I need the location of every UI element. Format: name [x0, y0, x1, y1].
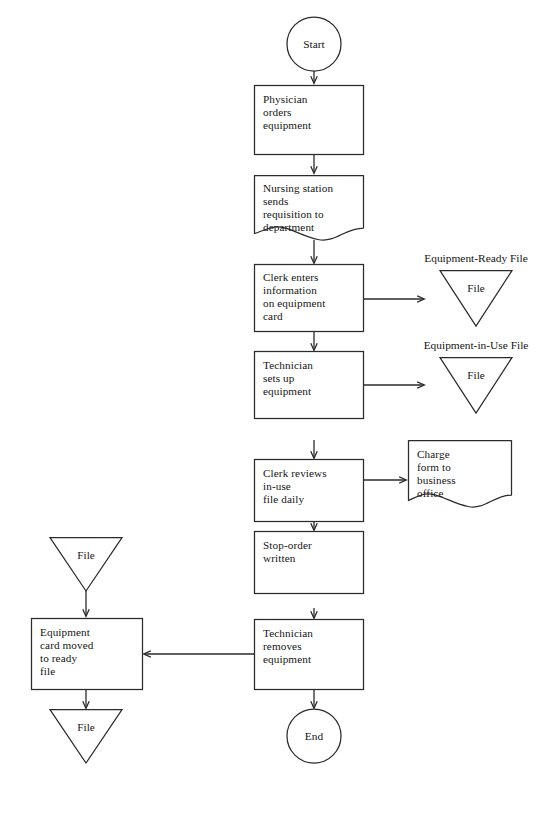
equipment-card-moved-line-3: to ready [40, 652, 77, 664]
physician-line-2: orders [263, 106, 292, 118]
charge-form-line-1: Charge [417, 448, 450, 460]
stop-order-line-2: written [263, 552, 296, 564]
file-ready-target[interactable]: File [50, 710, 122, 764]
physician-line-1: Physician [263, 93, 308, 105]
node-technician-sets-up[interactable]: Technician sets up equipment [255, 352, 364, 419]
technician-removes-line-1: Technician [263, 627, 313, 639]
clerk-reviews-line-3: file daily [263, 493, 304, 505]
node-physician-orders-equipment[interactable]: Physician orders equipment [255, 86, 364, 155]
technician-sets-line-1: Technician [263, 359, 313, 371]
ready-file-source-triangle [50, 538, 122, 592]
charge-form-line-4: office [417, 487, 443, 499]
ready-file-target-label: File [77, 721, 94, 733]
technician-sets-line-2: sets up [263, 372, 295, 384]
start-label: Start [303, 38, 325, 50]
charge-form-line-2: form to [417, 461, 451, 473]
node-charge-form[interactable]: Charge form to business office [409, 441, 512, 508]
clerk-enters-line-4: card [263, 310, 283, 322]
charge-form-line-3: business [417, 474, 456, 486]
equipment-card-moved-line-2: card moved [40, 639, 94, 651]
nursing-line-1: Nursing station [263, 182, 333, 194]
equipment-in-use-file-caption: Equipment-in-Use File [424, 339, 529, 351]
node-clerk-enters-information[interactable]: Clerk enters information on equipment ca… [255, 265, 364, 332]
equipment-ready-file-label: File [467, 282, 484, 294]
ready-file-source-label: File [77, 549, 94, 561]
node-clerk-reviews[interactable]: Clerk reviews in-use file daily [255, 460, 364, 522]
clerk-enters-line-2: information [263, 284, 317, 296]
stop-order-line-1: Stop-order [263, 539, 312, 551]
node-start[interactable]: Start [287, 17, 341, 71]
node-technician-removes[interactable]: Technician removes equipment [255, 620, 364, 690]
file-ready-source[interactable]: File [50, 538, 122, 592]
equipment-ready-file-caption: Equipment-Ready File [424, 252, 527, 264]
equipment-in-use-triangle [440, 358, 512, 414]
equipment-ready-triangle [440, 271, 512, 327]
clerk-enters-line-1: Clerk enters [263, 271, 319, 283]
nursing-line-3: requisition to [263, 208, 324, 220]
node-nursing-station[interactable]: Nursing station sends requisition to dep… [255, 176, 364, 241]
ready-file-target-triangle [50, 710, 122, 764]
node-equipment-card-moved[interactable]: Equipment card moved to ready file [32, 619, 143, 690]
node-end[interactable]: End [287, 709, 341, 763]
equipment-card-moved-line-1: Equipment [40, 626, 91, 638]
nursing-line-4: department [263, 221, 315, 233]
flowchart-diagram: Start Physician orders equipment Nursing… [0, 0, 543, 822]
file-equipment-in-use[interactable]: Equipment-in-Use File File [424, 339, 529, 413]
node-stop-order-written[interactable]: Stop-order written [255, 532, 364, 594]
end-label: End [305, 730, 324, 742]
flowchart-canvas: Start Physician orders equipment Nursing… [0, 0, 543, 822]
technician-sets-line-3: equipment [263, 385, 312, 397]
clerk-reviews-line-1: Clerk reviews [263, 467, 327, 479]
equipment-card-moved-line-4: file [40, 665, 55, 677]
equipment-in-use-file-label: File [467, 369, 484, 381]
nursing-line-2: sends [263, 195, 288, 207]
clerk-reviews-line-2: in-use [263, 480, 291, 492]
file-equipment-ready[interactable]: Equipment-Ready File File [424, 252, 527, 326]
clerk-enters-line-3: on equipment [263, 297, 326, 309]
technician-removes-line-2: removes [263, 640, 302, 652]
physician-line-3: equipment [263, 119, 312, 131]
technician-removes-line-3: equipment [263, 653, 312, 665]
